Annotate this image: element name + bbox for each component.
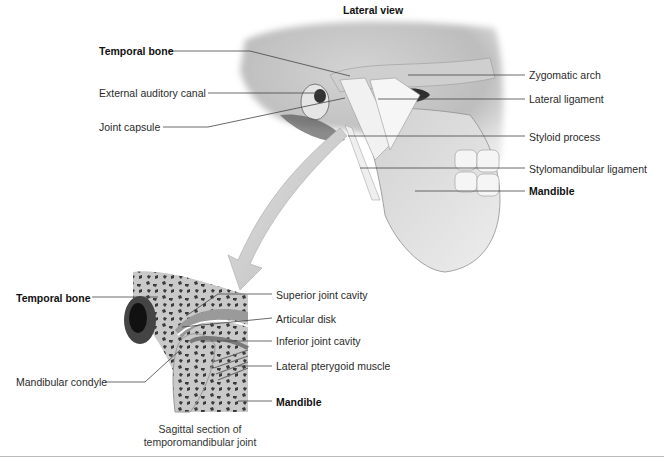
label-zygomatic-arch: Zygomatic arch — [529, 69, 601, 81]
label-temporal-bone-section: Temporal bone — [16, 292, 90, 304]
label-styloid-process: Styloid process — [529, 131, 600, 143]
section-caption: Sagittal section of temporomandibular jo… — [130, 423, 270, 449]
label-mandible-section: Mandible — [276, 396, 322, 408]
caption-line-2: temporomandibular joint — [130, 436, 270, 449]
label-temporal-bone-lateral: Temporal bone — [99, 45, 173, 57]
sagittal-section — [124, 271, 248, 412]
label-lateral-ligament: Lateral ligament — [529, 93, 604, 105]
label-mandibular-condyle: Mandibular condyle — [16, 376, 107, 388]
label-superior-joint-cavity: Superior joint cavity — [276, 289, 368, 301]
lateral-view-title: Lateral view — [343, 4, 403, 16]
label-lateral-pterygoid-muscle: Lateral pterygoid muscle — [276, 360, 390, 372]
label-articular-disk: Articular disk — [276, 313, 336, 325]
label-external-auditory-canal: External auditory canal — [99, 87, 206, 99]
label-stylomandibular-ligament: Stylomandibular ligament — [529, 163, 647, 175]
bottom-divider — [0, 456, 664, 457]
label-mandible-lateral: Mandible — [529, 185, 575, 197]
label-inferior-joint-cavity: Inferior joint cavity — [276, 335, 361, 347]
caption-line-1: Sagittal section of — [130, 423, 270, 436]
label-joint-capsule: Joint capsule — [99, 121, 160, 133]
zoom-arrow — [228, 128, 347, 290]
